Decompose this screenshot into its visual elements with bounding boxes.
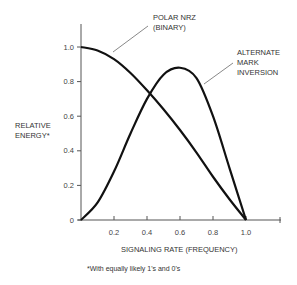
ami-label-line-1: ALTERNATE	[237, 48, 280, 57]
ami-curve	[81, 68, 246, 220]
ami-label-line-3: INVERSION	[237, 68, 278, 77]
y-tick-label: 0.2	[64, 181, 74, 190]
y-tick-label: 0	[70, 216, 74, 225]
ami-leader-line	[204, 63, 233, 84]
x-tick-label: 0.8	[208, 228, 218, 237]
polar-nrz-curve	[81, 47, 246, 220]
x-tick-label: 0.4	[142, 228, 152, 237]
polar-nrz-leader-line	[113, 26, 148, 52]
x-tick-label: 0.6	[175, 228, 185, 237]
y-tick-label: 1.0	[64, 43, 74, 52]
polar-nrz-label: POLAR NRZ	[153, 13, 196, 22]
y-tick-label: 0.8	[64, 77, 74, 86]
energy-spectrum-chart: 00.20.40.60.81.0 0.20.40.60.81.0 POLAR N…	[0, 0, 297, 285]
polar-nrz-label-sub: (BINARY)	[153, 23, 186, 32]
footnote: *With equally likely 1's and 0's	[87, 265, 181, 273]
y-tick-label: 0.6	[64, 112, 74, 121]
y-axis-label-line-2: ENERGY*	[15, 131, 50, 140]
y-ticks: 00.20.40.60.81.0	[64, 43, 81, 225]
y-axis-label-line-1: RELATIVE	[15, 121, 51, 130]
x-tick-label: 0.2	[109, 228, 119, 237]
x-axis-label: SIGNALING RATE (FREQUENCY)	[121, 245, 238, 254]
x-ticks: 0.20.40.60.81.0	[109, 216, 251, 237]
ami-label-line-2: MARK	[237, 58, 259, 67]
x-tick-label: 1.0	[241, 228, 251, 237]
y-tick-label: 0.4	[64, 146, 74, 155]
